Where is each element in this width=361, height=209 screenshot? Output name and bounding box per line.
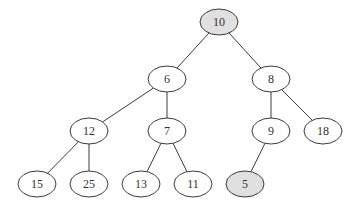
tree-diagram: 1068127918152513115	[0, 0, 361, 209]
edge-12-15	[48, 142, 79, 173]
node-label: 25	[83, 177, 95, 191]
node-label: 7	[164, 124, 170, 138]
tree-node-18: 18	[304, 118, 342, 144]
node-label: 12	[83, 124, 95, 138]
node-label: 9	[268, 124, 274, 138]
tree-node-9: 9	[252, 118, 290, 144]
tree-node-11: 11	[174, 171, 212, 197]
edge-10-6	[177, 33, 209, 68]
tree-node-5: 5	[226, 171, 264, 197]
edge-7-11	[173, 143, 187, 171]
node-label: 6	[164, 72, 170, 86]
edge-7-13	[147, 143, 161, 171]
tree-nodes: 1068127918152513115	[18, 9, 342, 197]
node-label: 11	[187, 177, 199, 191]
tree-node-6: 6	[148, 66, 186, 92]
node-label: 13	[135, 177, 147, 191]
node-label: 10	[213, 15, 225, 29]
tree-node-12: 12	[70, 118, 108, 144]
tree-node-13: 13	[122, 171, 160, 197]
tree-node-25: 25	[70, 171, 108, 197]
node-label: 8	[268, 72, 274, 86]
node-label: 5	[242, 177, 248, 191]
tree-node-10: 10	[200, 9, 238, 35]
node-label: 15	[31, 177, 43, 191]
tree-node-15: 15	[18, 171, 56, 197]
edge-9-5	[251, 143, 265, 171]
node-label: 18	[317, 124, 329, 138]
edge-10-8	[229, 33, 261, 68]
edge-8-18	[282, 90, 313, 121]
edge-6-12	[103, 88, 154, 122]
tree-edges	[48, 33, 313, 173]
tree-node-8: 8	[252, 66, 290, 92]
tree-node-7: 7	[148, 118, 186, 144]
